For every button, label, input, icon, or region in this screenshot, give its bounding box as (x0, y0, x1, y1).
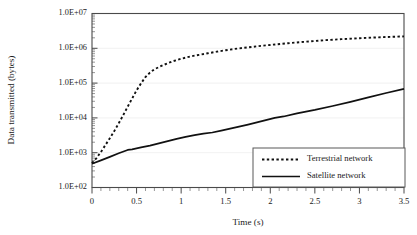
y-axis-tick-labels: 1.0E+021.0E+031.0E+041.0E+051.0E+061.0E+… (59, 8, 88, 191)
y-tick-label: 1.0E+04 (59, 113, 88, 122)
y-axis-title: Data transmitted (bytes) (6, 56, 16, 145)
x-tick-label: 2 (268, 196, 272, 206)
y-tick-label: 1.0E+06 (59, 43, 87, 52)
x-tick-label: 3 (357, 196, 361, 206)
x-axis-tick-labels: 00.511.522.533.5 (90, 196, 410, 206)
y-tick-label: 1.0E+07 (59, 8, 87, 17)
line-chart: 1.0E+021.0E+031.0E+041.0E+051.0E+061.0E+… (0, 0, 417, 235)
x-tick-label: 0.5 (131, 196, 142, 206)
legend-label: Satellite network (307, 170, 366, 180)
chart-legend: Terrestrial networkSatellite network (253, 148, 405, 187)
x-tick-label: 0 (90, 196, 94, 206)
x-tick-label: 2.5 (309, 196, 320, 206)
y-tick-label: 1.0E+05 (59, 78, 87, 87)
chart-container: 1.0E+021.0E+031.0E+041.0E+051.0E+061.0E+… (0, 0, 417, 235)
y-tick-label: 1.0E+03 (59, 148, 87, 157)
x-axis-title: Time (s) (232, 217, 263, 227)
y-tick-label: 1.0E+02 (59, 182, 87, 191)
data-series (92, 36, 404, 163)
x-tick-label: 1.5 (220, 196, 231, 206)
legend-label: Terrestrial network (307, 153, 373, 163)
x-tick-label: 3.5 (399, 196, 410, 206)
x-tick-label: 1 (179, 196, 183, 206)
